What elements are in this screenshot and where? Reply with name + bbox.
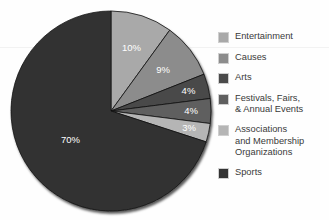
legend-item[interactable]: Sports (218, 167, 329, 179)
pie-slice-group (11, 11, 211, 211)
legend-swatch-icon (218, 168, 229, 179)
legend-item[interactable]: Associations and Membership Organization… (218, 124, 329, 159)
legend-swatch-icon (218, 125, 229, 136)
legend-item-label: Associations and Membership Organization… (235, 124, 304, 159)
legend-item[interactable]: Entertainment (218, 31, 329, 43)
legend-swatch-icon (218, 94, 229, 105)
pie-svg: 10%9%4%4%3%70% (7, 7, 218, 218)
pie-chart-area: 10%9%4%4%3%70% (7, 7, 218, 218)
legend-swatch-icon (218, 32, 229, 43)
legend-item[interactable]: Arts (218, 72, 329, 84)
legend-item-label: Festivals, Fairs, & Annual Events (235, 93, 303, 116)
legend-item-label: Arts (235, 72, 252, 84)
legend-item-label: Causes (235, 52, 267, 64)
legend-swatch-icon (218, 53, 229, 64)
legend-item-label: Entertainment (235, 31, 293, 43)
pie-slice-label: 3% (182, 122, 196, 133)
pie-slice-label: 4% (184, 105, 198, 116)
pie-chart-figure: 10%9%4%4%3%70% EntertainmentCausesArtsFe… (0, 0, 329, 220)
pie-slice-label: 4% (182, 85, 196, 96)
legend-item-label: Sports (235, 167, 262, 179)
legend-item[interactable]: Causes (218, 52, 329, 64)
pie-slice-label: 9% (156, 64, 170, 75)
pie-slice-label: 70% (61, 134, 81, 145)
legend-item[interactable]: Festivals, Fairs, & Annual Events (218, 93, 329, 116)
chart-legend: EntertainmentCausesArtsFestivals, Fairs,… (218, 31, 329, 188)
legend-swatch-icon (218, 73, 229, 84)
pie-slice-label: 10% (122, 42, 142, 53)
